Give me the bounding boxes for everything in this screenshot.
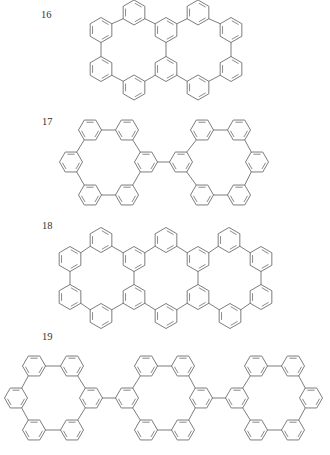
benzene-ring (59, 247, 81, 272)
benzene-ring (220, 18, 242, 43)
aryl-aryl-bond (145, 303, 155, 310)
benzene-ring (61, 420, 84, 440)
aryl-aryl-bond (243, 408, 251, 420)
aryl-aryl-bond (177, 19, 187, 24)
aryl-aryl-bond (78, 408, 86, 420)
benzene-ring (170, 152, 193, 172)
aryl-aryl-bond (112, 246, 123, 253)
benzene-ring (90, 57, 112, 82)
aryl-aryl-bond (209, 19, 220, 24)
aryl-aryl-bond (209, 303, 219, 310)
aryl-aryl-bond (112, 19, 123, 24)
aryl-aryl-bond (243, 376, 251, 388)
macrocycle-structures-canvas (0, 0, 330, 455)
benzene-ring (80, 388, 103, 408)
benzene-ring (135, 152, 158, 172)
aryl-aryl-bond (133, 408, 141, 420)
benzene-ring (60, 152, 83, 172)
aryl-aryl-bond (81, 303, 90, 310)
aryl-aryl-bond (133, 376, 141, 388)
aryl-aryl-bond (177, 246, 187, 253)
benzene-ring (123, 247, 145, 272)
aryl-aryl-bond (112, 75, 123, 81)
structure-16 (90, 0, 242, 100)
aryl-aryl-bond (187, 140, 197, 152)
benzene-ring (228, 120, 251, 140)
benzene-ring (220, 57, 242, 82)
aryl-aryl-bond (81, 246, 90, 253)
benzene-ring (191, 120, 214, 140)
benzene-ring (218, 228, 240, 253)
benzene-ring (172, 420, 195, 440)
benzene-ring (187, 75, 209, 100)
aryl-aryl-bond (177, 75, 187, 81)
benzene-ring (116, 185, 139, 205)
aryl-aryl-bond (189, 408, 196, 420)
benzene-ring (187, 247, 209, 272)
aryl-aryl-bond (133, 140, 141, 152)
aryl-aryl-bond (133, 172, 141, 185)
benzene-ring (228, 185, 251, 205)
benzene-ring (190, 388, 213, 408)
aryl-aryl-bond (299, 376, 306, 388)
aryl-aryl-bond (78, 376, 86, 388)
benzene-ring (219, 304, 241, 329)
benzene-ring (191, 185, 214, 205)
benzene-ring (59, 285, 81, 310)
benzene-ring (61, 356, 84, 376)
benzene-ring (250, 285, 272, 310)
benzene-ring (245, 420, 268, 440)
benzene-ring (282, 356, 305, 376)
structure-17 (60, 120, 269, 205)
aryl-aryl-bond (177, 303, 187, 310)
benzene-ring (90, 228, 112, 253)
aryl-aryl-bond (299, 408, 306, 420)
aryl-aryl-bond (145, 246, 155, 253)
benzene-ring (90, 304, 112, 329)
aryl-aryl-bond (22, 408, 29, 420)
benzene-ring (155, 57, 177, 82)
benzene-ring (172, 356, 195, 376)
aryl-aryl-bond (77, 172, 85, 185)
aryl-aryl-bond (112, 303, 123, 310)
benzene-ring (246, 152, 269, 172)
aryl-aryl-bond (209, 75, 220, 81)
benzene-ring (116, 388, 139, 408)
benzene-ring (187, 285, 209, 310)
benzene-ring (155, 304, 177, 329)
benzene-ring (123, 285, 145, 310)
benzene-ring (245, 356, 268, 376)
benzene-ring (79, 185, 102, 205)
benzene-ring (282, 420, 305, 440)
structure-18 (59, 228, 272, 329)
aryl-aryl-bond (77, 140, 85, 152)
benzene-ring (135, 420, 158, 440)
structure-19 (5, 356, 323, 440)
benzene-ring (116, 120, 139, 140)
aryl-aryl-bond (245, 172, 252, 185)
benzene-ring (226, 388, 249, 408)
benzene-ring (155, 18, 177, 43)
aryl-aryl-bond (209, 246, 218, 253)
aryl-aryl-bond (245, 140, 252, 152)
benzene-ring (300, 388, 323, 408)
benzene-ring (135, 356, 158, 376)
aryl-aryl-bond (145, 19, 155, 24)
benzene-ring (123, 0, 145, 25)
benzene-ring (155, 228, 177, 253)
aryl-aryl-bond (187, 172, 197, 185)
aryl-aryl-bond (145, 75, 155, 81)
aryl-aryl-bond (240, 246, 250, 253)
benzene-ring (250, 247, 272, 272)
aryl-aryl-bond (22, 376, 29, 388)
benzene-ring (5, 388, 28, 408)
aryl-aryl-bond (189, 376, 196, 388)
benzene-ring (187, 0, 209, 25)
benzene-ring (90, 18, 112, 43)
benzene-ring (123, 75, 145, 100)
benzene-ring (79, 120, 102, 140)
benzene-ring (23, 420, 46, 440)
benzene-ring (23, 356, 46, 376)
aryl-aryl-bond (241, 303, 250, 310)
